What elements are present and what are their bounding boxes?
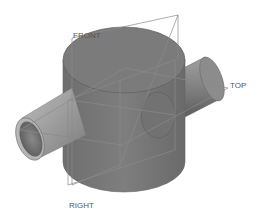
datum-label-front[interactable]: FRONT xyxy=(73,31,101,40)
datum-label-right[interactable]: RIGHT xyxy=(69,201,94,210)
datum-label-top[interactable]: TOP xyxy=(230,81,246,90)
main-cylinder[interactable] xyxy=(63,27,185,192)
model-viewport[interactable]: FRONT TOP RIGHT xyxy=(0,0,261,219)
model-canvas[interactable]: FRONT TOP RIGHT xyxy=(0,0,261,219)
